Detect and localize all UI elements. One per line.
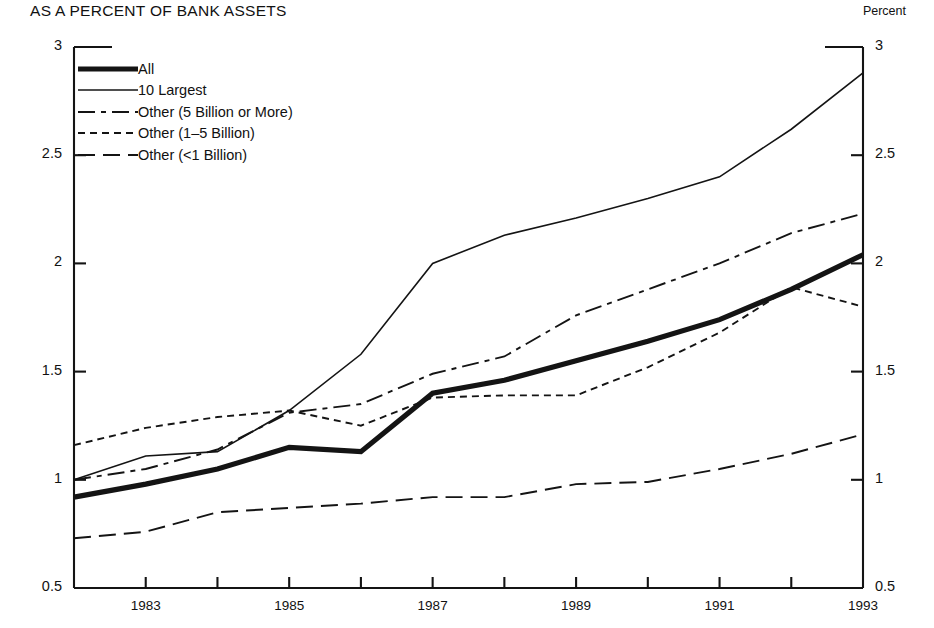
series-line-0	[74, 255, 863, 497]
chart-figure: AS A PERCENT OF BANK ASSETS Percent All1…	[0, 0, 934, 628]
y-axis-tick-label-right: 1.5	[875, 363, 895, 378]
legend-item[interactable]: 10 Largest	[78, 80, 293, 102]
y-axis-tick-label-right: 1	[875, 471, 883, 486]
y-axis-tick-label-right: 0.5	[875, 579, 895, 594]
legend-item-label: 10 Largest	[138, 82, 207, 98]
legend-item-label: Other (1–5 Billion)	[138, 125, 255, 141]
y-axis-tick-label-left: 2.5	[0, 146, 62, 161]
y-axis-tick-label-left: 2	[0, 254, 62, 269]
y-axis-tick-label-left: 0.5	[0, 579, 62, 594]
y-axis-tick-label-right: 2	[875, 254, 883, 269]
legend-line-swatch-icon	[78, 149, 138, 161]
x-axis-tick-label: 1985	[274, 598, 304, 613]
x-axis-tick-label: 1991	[705, 598, 735, 613]
series-line-2	[74, 214, 863, 480]
legend-line-swatch-icon	[78, 106, 138, 118]
x-axis-tick-label: 1989	[561, 598, 591, 613]
legend-item-label: All	[138, 61, 154, 77]
x-axis-tick-label: 1983	[131, 598, 161, 613]
y-axis-tick-label-left: 1	[0, 471, 62, 486]
y-axis-tick-label-right: 3	[875, 38, 883, 53]
series-line-4	[74, 434, 863, 538]
legend: All10 LargestOther (5 Billion or More)Ot…	[78, 58, 293, 166]
y-axis-tick-label-left: 3	[0, 38, 62, 53]
y-axis-tick-label-right: 2.5	[875, 146, 895, 161]
x-axis-tick-label: 1987	[418, 598, 448, 613]
legend-item[interactable]: Other (<1 Billion)	[78, 144, 293, 166]
y-axis-tick-label-left: 1.5	[0, 363, 62, 378]
legend-item-label: Other (5 Billion or More)	[138, 104, 293, 120]
legend-item[interactable]: All	[78, 58, 293, 80]
x-axis-tick-label: 1993	[848, 598, 878, 613]
legend-line-swatch-icon	[78, 127, 138, 139]
legend-item[interactable]: Other (1–5 Billion)	[78, 123, 293, 145]
legend-line-swatch-icon	[78, 63, 138, 75]
legend-item-label: Other (<1 Billion)	[138, 147, 247, 163]
legend-line-swatch-icon	[78, 84, 138, 96]
legend-item[interactable]: Other (5 Billion or More)	[78, 101, 293, 123]
